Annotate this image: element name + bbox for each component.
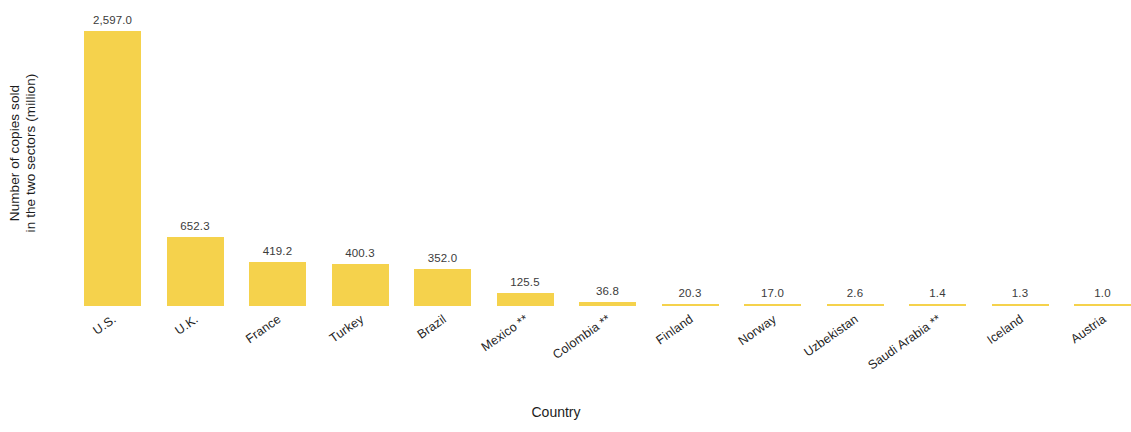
bar-u-s[interactable]: 2,597.0 — [84, 0, 141, 306]
bar-austria[interactable]: 1.0 — [1074, 0, 1131, 306]
bar-u-k[interactable]: 652.3 — [167, 0, 224, 306]
bar-norway[interactable]: 17.0 — [744, 0, 801, 306]
x-tick-label: France — [243, 312, 283, 346]
bar-rect[interactable] — [497, 293, 554, 306]
x-tick-label: Mexico ** — [479, 312, 531, 354]
bar-value-label: 36.8 — [596, 285, 619, 297]
bar-rect[interactable] — [84, 31, 141, 306]
bar-rect[interactable] — [332, 264, 389, 306]
bar-rect[interactable] — [167, 237, 224, 306]
x-tick-label: Norway — [735, 312, 778, 348]
bar-value-label: 1.3 — [1012, 287, 1028, 299]
x-tick-label: U.S. — [90, 312, 118, 338]
bar-value-label: 17.0 — [761, 287, 784, 299]
bar-rect[interactable] — [414, 269, 471, 306]
x-tick-label: U.K. — [173, 312, 201, 338]
bar-value-label: 20.3 — [679, 287, 702, 299]
x-tick-label: Turkey — [327, 312, 366, 345]
x-tick-label: Saudi Arabia ** — [865, 312, 943, 373]
bar-value-label: 125.5 — [510, 276, 539, 288]
bar-value-label: 419.2 — [263, 245, 292, 257]
bar-value-label: 2.6 — [847, 287, 863, 299]
bar-rect[interactable] — [249, 262, 306, 306]
x-tick-label: Iceland — [984, 312, 1026, 347]
x-tick-label: Colombia ** — [551, 312, 614, 362]
bar-value-label: 1.4 — [929, 287, 945, 299]
bar-uzbekistan[interactable]: 2.6 — [827, 0, 884, 306]
x-tick-label: Austria — [1068, 312, 1108, 346]
x-tick-label: Finland — [654, 312, 696, 347]
bar-value-label: 2,597.0 — [93, 14, 132, 26]
bar-iceland[interactable]: 1.3 — [992, 0, 1049, 306]
bar-colombia[interactable]: 36.8 — [579, 0, 636, 306]
bar-saudi-arabia[interactable]: 1.4 — [909, 0, 966, 306]
bar-brazil[interactable]: 352.0 — [414, 0, 471, 306]
bar-value-label: 652.3 — [180, 220, 209, 232]
bar-value-label: 400.3 — [345, 247, 374, 259]
bar-turkey[interactable]: 400.3 — [332, 0, 389, 306]
bar-value-label: 352.0 — [428, 252, 457, 264]
x-tick-label: Uzbekistan — [802, 312, 862, 360]
x-tick-label: Brazil — [414, 312, 448, 342]
bar-france[interactable]: 419.2 — [249, 0, 306, 306]
plot-area: 2,597.0652.3419.2400.3352.0125.536.820.3… — [0, 0, 1112, 306]
bar-value-label: 1.0 — [1094, 287, 1110, 299]
x-axis-title-text: Country — [531, 404, 580, 420]
bar-mexico[interactable]: 125.5 — [497, 0, 554, 306]
x-axis-title: Country — [0, 404, 1112, 420]
bar-finland[interactable]: 20.3 — [662, 0, 719, 306]
x-axis-tick-labels: U.S.U.K.FranceTurkeyBrazilMexico **Colom… — [0, 306, 1112, 396]
